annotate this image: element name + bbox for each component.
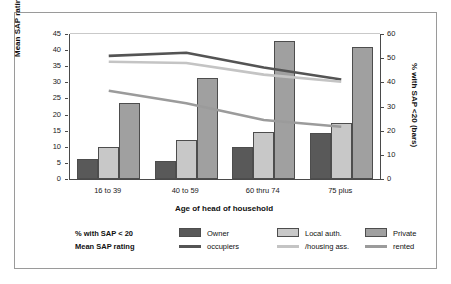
y-axis-right-tick-mark: [381, 107, 384, 108]
y-axis-right-tick-label: 40: [387, 78, 395, 86]
x-axis-tick-label: 40 to 59: [145, 186, 225, 195]
legend-row-label-bars: % with SAP < 20: [75, 229, 133, 238]
legend-bar-label: Private: [393, 229, 416, 238]
y-axis-left-tick-label: 10: [37, 143, 61, 151]
x-axis-title: Age of head of household: [69, 204, 379, 213]
x-axis-tick-label: 60 thru 74: [223, 186, 303, 195]
plot-area: [69, 34, 381, 180]
y-axis-left-tick-label: 20: [37, 111, 61, 119]
y-axis-left-tick-mark: [65, 115, 68, 116]
y-axis-right-tick-mark: [381, 179, 384, 180]
legend-bar-swatch: [179, 228, 201, 237]
y-axis-right-tick-label: 30: [387, 103, 395, 111]
y-axis-right-tick-mark: [381, 131, 384, 132]
legend-row-label-lines: Mean SAP rating: [75, 242, 134, 251]
legend-bar-label: Owner: [207, 229, 229, 238]
line-series: [109, 62, 342, 82]
y-axis-left-title: Mean SAP rating (lines): [13, 0, 22, 57]
y-axis-left-tick-label: 30: [37, 78, 61, 86]
y-axis-right-tick-label: 0: [387, 175, 391, 183]
y-axis-left-tick-label: 0: [37, 175, 61, 183]
chart-legend: % with SAP < 20Mean SAP ratingOwneroccup…: [75, 227, 425, 261]
line-series: [109, 53, 342, 80]
y-axis-left-tick-label: 15: [37, 127, 61, 135]
y-axis-left-tick-mark: [65, 98, 68, 99]
y-axis-left-tick-mark: [65, 50, 68, 51]
y-axis-left-tick-mark: [65, 147, 68, 148]
x-axis-tick-label: 75 plus: [300, 186, 380, 195]
y-axis-left-tick-label: 40: [37, 46, 61, 54]
legend-line-label: rented: [393, 242, 414, 251]
y-axis-left-tick-mark: [65, 34, 68, 35]
y-axis-right-tick-mark: [381, 34, 384, 35]
legend-line-swatch: [365, 245, 387, 248]
line-series: [109, 91, 342, 127]
legend-line-swatch: [179, 245, 201, 248]
y-axis-left-tick-label: 25: [37, 94, 61, 102]
y-axis-right-tick-label: 50: [387, 54, 395, 62]
y-axis-right-tick-mark: [381, 82, 384, 83]
legend-bar-swatch: [365, 228, 387, 237]
y-axis-right-tick-label: 20: [387, 127, 395, 135]
chart-figure: Mean SAP rating (lines) % with SAP <20 (…: [14, 12, 437, 269]
legend-line-label: occupiers: [207, 242, 239, 251]
y-axis-left-tick-label: 35: [37, 62, 61, 70]
y-axis-left-tick-mark: [65, 131, 68, 132]
y-axis-right-tick-label: 10: [387, 151, 395, 159]
legend-bar-swatch: [277, 228, 299, 237]
y-axis-left-tick-mark: [65, 82, 68, 83]
legend-bar-label: Local auth.: [305, 229, 342, 238]
legend-line-swatch: [277, 245, 299, 248]
y-axis-right-tick-mark: [381, 155, 384, 156]
y-axis-left-tick-label: 5: [37, 159, 61, 167]
legend-line-label: /housing ass.: [305, 242, 349, 251]
x-axis-tick-label: 16 to 39: [68, 186, 148, 195]
y-axis-right-tick-mark: [381, 58, 384, 59]
y-axis-right-title: % with SAP <20 (bars): [410, 63, 419, 193]
y-axis-left-tick-mark: [65, 179, 68, 180]
y-axis-left-tick-mark: [65, 66, 68, 67]
y-axis-right-tick-label: 60: [387, 30, 395, 38]
y-axis-left-tick-mark: [65, 163, 68, 164]
y-axis-left-tick-label: 45: [37, 30, 61, 38]
lines-layer: [70, 34, 380, 179]
